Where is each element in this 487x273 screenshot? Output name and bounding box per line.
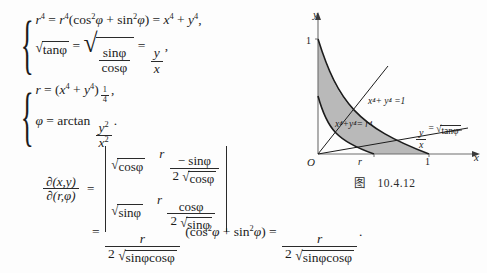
equation-r-explicit: r = (x4 + y4)14, — [35, 82, 117, 105]
equation-phi-arctan: φ = arctan y2x2. — [35, 113, 117, 151]
period-1: . — [114, 113, 117, 128]
plus-sign: + — [106, 12, 114, 27]
caption-prefix: 图 — [354, 177, 366, 189]
document-page: { r4 = r4(cos2φ + sin2φ) = x4 + y4, √tan… — [0, 0, 487, 273]
equals-3: = — [73, 38, 81, 53]
equals-8: = — [92, 224, 100, 239]
r-exponent: 4 — [41, 12, 45, 21]
comma-1: , — [198, 12, 201, 27]
radical-sign-icon-5: √ — [436, 124, 441, 137]
cos-function-2: cos — [190, 224, 208, 239]
period-2: . — [359, 224, 362, 239]
sqrt-cos-phi: √cosφ — [111, 157, 145, 175]
cos-phi-denominator: cosφ — [99, 60, 131, 75]
entry-1-2-fraction: − sinφ 2 √cosφ — [170, 154, 220, 186]
sqrt-sin-over-cos: √sinφcosφ — [84, 35, 135, 76]
radical-sign-icon: √ — [35, 40, 42, 59]
cos-function: cos — [73, 12, 91, 27]
equals-5: = — [44, 82, 52, 97]
jacobian-lhs-fraction: ∂(x,y) ∂(r,φ) — [43, 175, 79, 204]
figure-graphic — [296, 6, 487, 181]
figure-10-4-12: y x O 1 1 r x⁴+ y⁴ =1 x⁴+y⁴= r⁴ yx= √tan… — [296, 6, 487, 202]
plus-sign-2: + — [177, 12, 185, 27]
equals-2: = — [153, 12, 161, 27]
y-squared-numerator: y2 — [96, 121, 112, 135]
phi-symbol-3: φ — [35, 113, 42, 128]
r-symbol-3: r — [35, 82, 40, 97]
equals-6: = — [46, 113, 54, 128]
determinant-row-1: √cosφ r − sinφ 2 √cosφ — [111, 146, 221, 186]
curve-outer-label: x⁴+ y⁴ =1 — [368, 96, 405, 106]
figure-caption: 图10.4.12 — [354, 174, 416, 190]
equation-system-1: { r4 = r4(cos2φ + sin2φ) = x4 + y4, √tan… — [20, 12, 202, 76]
radicand-fraction: sinφcosφ — [96, 37, 135, 76]
y-tick-label-1: 1 — [306, 35, 311, 46]
equals-1: = — [48, 12, 56, 27]
left-brace-2: { — [21, 84, 34, 149]
sin-function-2: sin — [234, 224, 250, 239]
sqrt-tan-phi: √tanφ — [35, 40, 69, 58]
radical-sign-icon-2: √ — [84, 34, 98, 77]
x-exponent: 4 — [170, 12, 174, 21]
final-result-line: = r 2 √sinφcosφ (cos2φ + sin2φ) = r 2 √s… — [92, 224, 362, 265]
quarter-exponent: 14 — [99, 82, 111, 91]
equation-sqrt-tan: √tanφ = √sinφcosφ = yx, — [35, 35, 201, 76]
paren-close-3: ) — [261, 224, 266, 239]
sin-phi-numerator: sinφ — [100, 46, 130, 60]
jacobian-denominator: ∂(r,φ) — [43, 188, 78, 203]
equals-9: = — [269, 224, 277, 239]
x-exponent-2: 4 — [66, 82, 70, 91]
equals-7: = — [87, 181, 94, 197]
result-2-denominator: 2 √sinφcosφ — [282, 246, 357, 265]
entry-1-2: r − sinφ 2 √cosφ — [159, 146, 221, 186]
plus-sign-4: + — [223, 224, 231, 239]
radical-sign-icon-4: √ — [111, 202, 118, 221]
radicand-tan-phi: tanφ — [42, 41, 69, 58]
x-axis-label: x — [474, 151, 479, 163]
equation-r4: r4 = r4(cos2φ + sin2φ) = x4 + y4, — [35, 12, 201, 28]
paren-close: ) — [145, 12, 150, 27]
jacobian-equation: ∂(x,y) ∂(r,φ) = √cosφ r − sinφ 2 √cosφ — [41, 146, 232, 232]
x-denominator: x — [151, 61, 163, 76]
phi-symbol: φ — [95, 12, 102, 27]
determinant-bar-right — [226, 146, 227, 232]
quarter-den: 4 — [101, 95, 109, 105]
equation-system-2: { r = (x4 + y4)14, φ = arctan y2x2. — [20, 82, 117, 151]
comma-3: , — [111, 82, 114, 97]
determinant-bar-left — [105, 146, 106, 232]
result-fraction-2: r 2 √sinφcosφ — [282, 232, 357, 265]
equals-4: = — [138, 38, 146, 53]
radical-sign-icon-3: √ — [111, 156, 118, 175]
determinant-body: √cosφ r − sinφ 2 √cosφ √sinφ r cos — [111, 146, 221, 232]
phi-symbol-2: φ — [137, 12, 144, 27]
result-fraction-1: r 2 √sinφcosφ — [105, 232, 180, 265]
plus-sign-3: + — [73, 82, 81, 97]
x-tick-label-1: 1 — [425, 156, 430, 167]
quarter-num: 1 — [101, 86, 109, 95]
sqrt-tan-phi-figure: √tanφ — [436, 124, 460, 136]
result-1-denominator: 2 √sinφcosφ — [105, 246, 180, 265]
curve-inner-label: x⁴+y⁴= r⁴ — [335, 119, 372, 129]
jacobian-numerator: ∂(x,y) — [43, 175, 79, 189]
arctan-function: arctan — [57, 113, 90, 128]
left-brace-1: { — [21, 12, 34, 77]
sin-function: sin — [117, 12, 133, 27]
origin-label: O — [307, 156, 315, 168]
x-tick-label-r: r — [358, 156, 362, 167]
entry-1-2-denominator: 2 √cosφ — [170, 168, 220, 186]
phi-symbol-4: φ — [212, 224, 219, 239]
comma-2: , — [165, 38, 168, 53]
y-numerator: y — [151, 46, 163, 60]
sqrt-sin-phi: √sinφ — [111, 203, 143, 221]
caption-number: 10.4.12 — [378, 177, 416, 189]
ray-equation-label: yx= √tanφ — [414, 123, 461, 150]
y-axis-label: y — [313, 8, 318, 20]
determinant: √cosφ r − sinφ 2 √cosφ √sinφ r cos — [100, 146, 232, 232]
